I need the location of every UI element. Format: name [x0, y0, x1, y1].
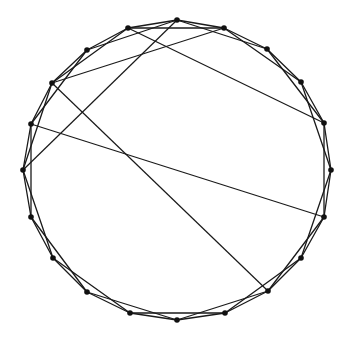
graph-node [28, 214, 34, 220]
ring-edge [324, 170, 331, 217]
ring-edge [224, 28, 301, 82]
ring-edge [53, 258, 130, 313]
graph-node [221, 25, 227, 31]
graph-node [84, 289, 90, 295]
ring-edge [268, 258, 301, 291]
ring-edge [31, 217, 87, 292]
graph-node [321, 120, 327, 126]
graph-node [265, 288, 271, 294]
graph-node [127, 310, 133, 316]
chord-edge [52, 28, 224, 83]
graph-node [321, 214, 327, 220]
ring-edge [268, 217, 324, 291]
ring-edge [267, 49, 301, 82]
ring-edge [23, 170, 31, 217]
ring-edge [301, 82, 331, 170]
ring-edge [177, 20, 224, 28]
graph-node [84, 47, 90, 53]
ring-edge [267, 49, 324, 123]
ring-edge [224, 28, 267, 49]
graph-node [20, 167, 26, 173]
graph-node [174, 317, 180, 323]
graph-node [28, 121, 34, 127]
ring-edge [31, 217, 53, 258]
ring-edge [87, 292, 177, 320]
ring-edge [87, 292, 130, 313]
ring-edge [52, 28, 128, 83]
ring-edge [31, 83, 52, 124]
graph-node [264, 46, 270, 52]
graph-node [222, 310, 228, 316]
graph-node [298, 79, 304, 85]
graph-node [174, 17, 180, 23]
graph-node [50, 255, 56, 261]
ring-edge [177, 291, 268, 320]
circular-graph-diagram [0, 0, 350, 337]
ring-edge [31, 50, 87, 124]
graph-node [328, 167, 334, 173]
ring-edge [177, 313, 225, 320]
chord-edge [52, 83, 268, 291]
ring-edge [52, 50, 87, 83]
ring-edge [53, 258, 87, 292]
graph-node [298, 255, 304, 261]
ring-edge [130, 313, 177, 320]
graph-node [49, 80, 55, 86]
ring-edge [177, 20, 267, 49]
ring-edge [324, 123, 331, 170]
ring-edge [23, 170, 53, 258]
graph-node [125, 25, 131, 31]
